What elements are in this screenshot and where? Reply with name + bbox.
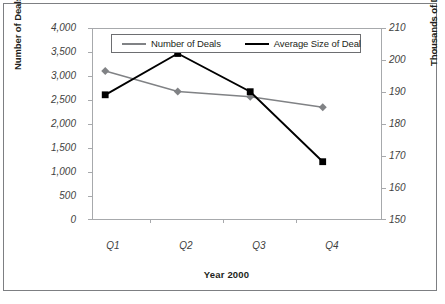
data-point-1-0 <box>102 91 109 98</box>
left-axis-title: Number of Deals/Year <box>12 0 26 70</box>
x-tick-q4: Q4 <box>302 240 362 251</box>
tickmark-right-210 <box>382 28 386 29</box>
left-axis-ticks: 4,000 3,500 3,000 2,500 2,000 1,500 1,00… <box>32 4 76 304</box>
legend-label-average-size-of-deal: Average Size of Deal <box>274 38 361 49</box>
tickmark-left-3000 <box>88 76 92 77</box>
tickmark-right-190 <box>382 92 386 93</box>
data-point-0-0 <box>101 67 109 75</box>
legend-item-number-of-deals[interactable]: Number of Deals <box>122 35 221 52</box>
tickmark-x-1 <box>150 219 151 223</box>
x-tick-q2: Q2 <box>156 240 216 251</box>
right-tick-200: 200 <box>389 54 433 65</box>
left-tick-2500: 2,500 <box>32 94 76 105</box>
right-tick-160: 160 <box>389 182 433 193</box>
x-tick-q1: Q1 <box>83 240 143 251</box>
bottom-axis-line <box>92 219 382 220</box>
right-tick-180: 180 <box>389 118 433 129</box>
tickmark-right-150 <box>382 219 386 220</box>
top-axis-line <box>92 28 382 29</box>
tickmark-right-160 <box>382 188 386 189</box>
right-tick-210: 210 <box>389 22 433 33</box>
series-line-1 <box>105 54 322 162</box>
tickmark-right-180 <box>382 124 386 125</box>
tickmark-left-3500 <box>88 52 92 53</box>
data-point-1-2 <box>247 88 254 95</box>
right-tick-170: 170 <box>389 150 433 161</box>
data-point-0-3 <box>319 103 327 111</box>
tickmark-right-170 <box>382 156 386 157</box>
right-axis-ticks: 210 200 190 180 170 160 150 <box>389 4 433 304</box>
tickmark-left-500 <box>88 196 92 197</box>
tickmark-left-4000 <box>88 28 92 29</box>
left-tick-2000: 2,000 <box>32 118 76 129</box>
left-tick-0: 0 <box>32 214 76 225</box>
left-axis-line <box>92 28 93 220</box>
left-tick-3000: 3,000 <box>32 70 76 81</box>
series-plot <box>92 28 382 220</box>
legend-marker-square-icon <box>245 38 269 49</box>
chart-figure: Number of Deals/Year Thousands of Dollar… <box>3 3 437 291</box>
tickmark-right-200 <box>382 60 386 61</box>
tickmark-left-2500 <box>88 100 92 101</box>
x-tick-q3: Q3 <box>229 240 289 251</box>
tickmark-left-0 <box>88 219 92 220</box>
legend-label-number-of-deals: Number of Deals <box>151 38 221 49</box>
legend-item-average-size-of-deal[interactable]: Average Size of Deal <box>245 35 361 52</box>
tickmark-left-2000 <box>88 124 92 125</box>
left-tick-3500: 3,500 <box>32 46 76 57</box>
data-point-1-3 <box>319 158 326 165</box>
left-tick-4000: 4,000 <box>32 22 76 33</box>
left-tick-500: 500 <box>32 190 76 201</box>
right-tick-190: 190 <box>389 86 433 97</box>
tickmark-x-3 <box>296 219 297 223</box>
right-tick-150: 150 <box>389 214 433 225</box>
left-tick-1000: 1,000 <box>32 166 76 177</box>
left-tick-1500: 1,500 <box>32 142 76 153</box>
chart-legend[interactable]: Number of Deals Average Size of Deal <box>111 34 361 53</box>
legend-marker-diamond-icon <box>122 38 146 49</box>
tickmark-left-1500 <box>88 148 92 149</box>
tickmark-left-1000 <box>88 172 92 173</box>
tickmark-x-2 <box>223 219 224 223</box>
data-point-0-1 <box>174 88 182 96</box>
plot-area <box>92 28 382 219</box>
